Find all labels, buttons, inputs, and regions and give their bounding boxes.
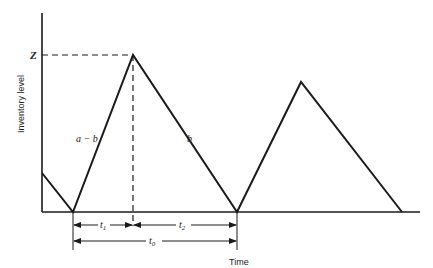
t1-label: t1 — [100, 219, 106, 232]
t2-label: t2 — [179, 219, 186, 232]
rising-rate-label: a − b — [76, 133, 98, 144]
t0-label: t0 — [149, 235, 156, 248]
y-axis-label: Inventory level — [16, 75, 26, 133]
x-axis-label: Time — [229, 257, 249, 267]
falling-rate-label: b — [187, 133, 192, 144]
z-tick-label: Z — [29, 49, 37, 61]
inventory-diagram: Inventory level Time Z a − b b t1 t2 t0 — [0, 0, 433, 268]
